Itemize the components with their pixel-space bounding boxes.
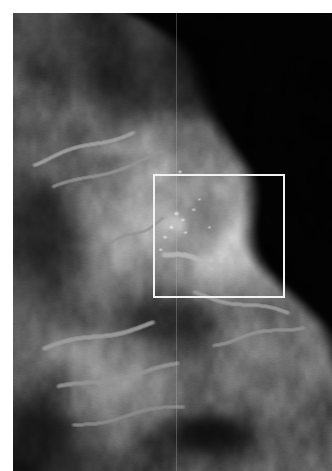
image-viewer: Black and white mammogram X-ray with a w… xyxy=(0,0,332,471)
roi-annotation-box[interactable] xyxy=(153,174,285,298)
mammogram-film[interactable] xyxy=(13,13,332,471)
